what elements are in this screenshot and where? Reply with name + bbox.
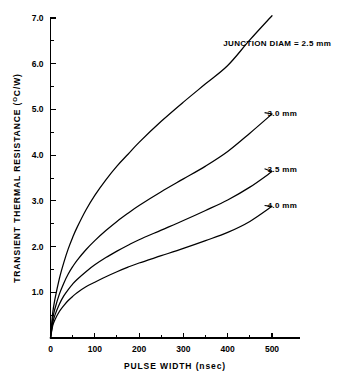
series-label-4-0-mm: 4.0 mm <box>268 201 298 210</box>
series-label-3-5-mm: 3.5 mm <box>268 165 298 174</box>
y-tick-label: 2.0 <box>32 242 44 252</box>
x-tick-label: 300 <box>176 344 190 354</box>
y-tick-label: 6.0 <box>32 59 44 69</box>
annotation-leader-lines <box>265 113 272 207</box>
x-tick-label: 200 <box>132 344 146 354</box>
x-tick-label: 500 <box>265 344 279 354</box>
x-tick-label: 0 <box>48 344 53 354</box>
y-axis-major-ticks <box>51 18 56 292</box>
chart-figure: 1.02.03.04.05.06.07.0 0100200300400500 J… <box>0 0 351 378</box>
y-tick-label: 3.0 <box>32 196 44 206</box>
axes <box>51 17 301 338</box>
y-tick-label: 1.0 <box>32 287 44 297</box>
y-axis-title: TRANSIENT THERMAL RESISTANCE (OC/W) <box>12 73 22 283</box>
x-axis-tick-labels: 0100200300400500 <box>48 344 279 354</box>
x-tick-label: 100 <box>88 344 102 354</box>
x-axis-title: PULSE WIDTH (nsec) <box>124 361 226 371</box>
transient-thermal-resistance-chart: 1.02.03.04.05.06.07.0 0100200300400500 J… <box>0 0 351 378</box>
series-annotations: JUNCTION DIAM = 2.5 mm3.0 mm3.5 mm4.0 mm <box>223 39 331 210</box>
curve-4-0-mm <box>51 206 273 338</box>
y-tick-label: 5.0 <box>32 104 44 114</box>
curve-3-0-mm <box>51 114 273 338</box>
curve-2-5-mm <box>51 16 273 338</box>
curve-3-5-mm <box>51 172 273 338</box>
series-label-3-0-mm: 3.0 mm <box>268 109 298 118</box>
y-axis-tick-labels: 1.02.03.04.05.06.07.0 <box>32 13 44 297</box>
y-tick-label: 4.0 <box>32 150 44 160</box>
series-label-2-5-mm: JUNCTION DIAM = 2.5 mm <box>223 39 331 48</box>
x-tick-label: 400 <box>221 344 235 354</box>
y-tick-label: 7.0 <box>32 13 44 23</box>
data-curves <box>51 16 273 338</box>
